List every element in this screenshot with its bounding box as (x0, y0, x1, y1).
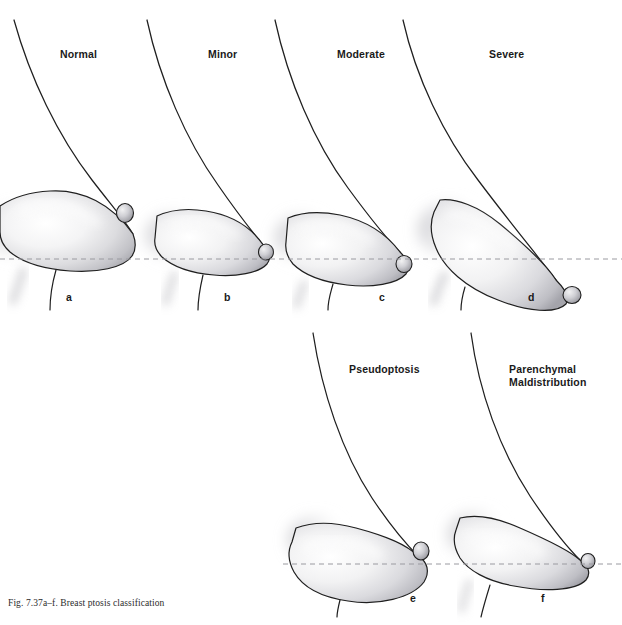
panel-title-pseudoptosis: Pseudoptosis (349, 363, 420, 376)
panel-d-severe-illustration (403, 20, 581, 310)
abdominal-wall-line-e (337, 600, 340, 617)
figure-illustration-canvas (0, 0, 622, 625)
panel-title-normal: Normal (60, 48, 97, 61)
nipple-d (563, 287, 581, 304)
abdominal-wall-line-a (50, 270, 56, 310)
abdominal-wall-line-d (461, 287, 465, 310)
panel-c-moderate-illustration (275, 20, 412, 310)
under-breast-shadow-c (296, 281, 305, 308)
panel-e-pseudoptosis-illustration (288, 333, 429, 617)
panel-letter-a: a (66, 291, 72, 303)
panel-letter-f: f (541, 592, 545, 604)
panel-title-parenchymal-maldistribution: Parenchymal Maldistribution (509, 363, 587, 388)
panel-letter-c: c (379, 291, 385, 303)
breast-body-c (286, 213, 408, 286)
nipple-c (396, 256, 412, 273)
under-breast-shadow-d (433, 272, 446, 305)
under-breast-shadow-f (461, 580, 470, 612)
abdominal-wall-line-f (481, 585, 490, 617)
figure-caption: Fig. 7.37a–f. Breast ptosis classificati… (8, 598, 164, 608)
under-breast-shadow-a (12, 268, 24, 304)
panel-b-minor-illustration (146, 20, 274, 310)
breast-body-e (289, 524, 427, 603)
panel-title-moderate: Moderate (337, 48, 385, 61)
abdominal-wall-line-b (198, 275, 203, 310)
nipple-f (581, 554, 595, 569)
nipple-a (117, 204, 134, 223)
panel-title-severe: Severe (489, 48, 524, 61)
breast-body-f (454, 516, 588, 589)
under-breast-shadow-b (165, 272, 175, 305)
panel-a-normal-illustration (0, 20, 135, 310)
nipple-e (413, 542, 429, 560)
panel-letter-b: b (224, 291, 230, 303)
panel-letter-e: e (410, 592, 416, 604)
nipple-b (259, 244, 274, 260)
abdominal-wall-line-c (328, 284, 333, 310)
panel-letter-d: d (528, 291, 534, 303)
breast-ptosis-classification-figure: Normal Minor Moderate Severe Pseudoptosi… (0, 0, 622, 625)
panel-title-minor: Minor (208, 48, 237, 61)
